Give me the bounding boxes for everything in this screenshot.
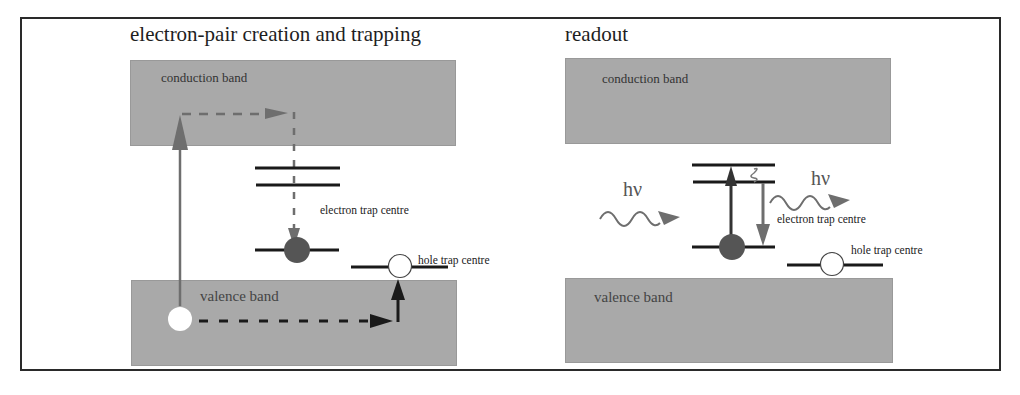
left-intermediate-levels — [255, 168, 340, 185]
valence-hole-icon — [168, 307, 192, 331]
relaxation-squiggle-icon — [751, 169, 757, 183]
trapped-electron-icon — [284, 237, 310, 263]
hole-drift-path — [199, 279, 405, 328]
electron-drift-path — [182, 108, 300, 247]
left-hole-trap — [351, 255, 448, 278]
diagram-graphics — [0, 0, 1020, 395]
excitation-arrow — [172, 115, 188, 306]
trapped-hole-icon — [389, 255, 412, 278]
readout-hole-icon — [821, 253, 844, 276]
emission-arrow — [756, 183, 770, 246]
right-hole-trap — [787, 253, 883, 276]
outgoing-photon-wave-icon — [770, 194, 850, 210]
readout-electron-icon — [719, 234, 745, 260]
left-electron-trap — [255, 237, 339, 263]
incoming-photon-wave-icon — [600, 211, 680, 226]
stimulation-arrow — [725, 166, 737, 240]
